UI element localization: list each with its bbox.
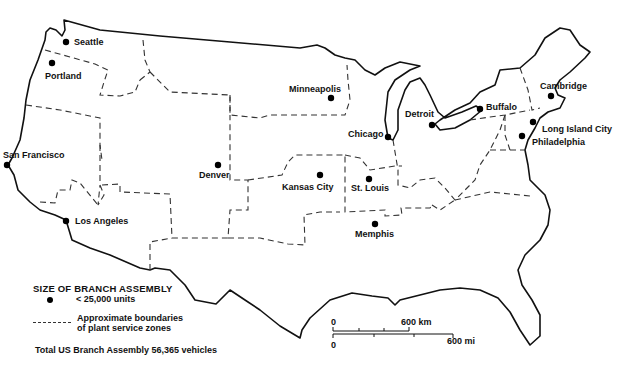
city-dot-los-angeles	[63, 218, 69, 224]
city-dot-denver	[215, 162, 221, 168]
city-label-denver: Denver	[199, 170, 230, 180]
city-dot-detroit	[429, 122, 435, 128]
scale-km-zero: 0	[331, 317, 336, 327]
city-dot-st-louis	[366, 176, 372, 182]
city-dot-long-island-city	[530, 119, 536, 125]
city-label-seattle: Seattle	[74, 37, 104, 47]
city-dot-kansas-city	[317, 172, 323, 178]
legend-dash-label-line1: Approximate boundaries	[77, 313, 183, 323]
city-dot-chicago	[385, 134, 391, 140]
city-label-kansas-city: Kansas City	[282, 182, 334, 192]
city-dot-cambridge	[548, 93, 554, 99]
legend-dash-label-line2: of plant service zones	[77, 323, 171, 333]
city-dot-memphis	[372, 221, 378, 227]
city-label-detroit: Detroit	[405, 109, 434, 119]
city-label-minneapolis: Minneapolis	[289, 84, 341, 94]
city-label-portland: Portland	[45, 71, 82, 81]
city-dot-san-francisco	[4, 162, 10, 168]
city-label-memphis: Memphis	[355, 229, 394, 239]
city-label-san-francisco: San Francisco	[3, 150, 65, 160]
city-dot-minneapolis	[328, 95, 334, 101]
legend-dot-label: < 25,000 units	[76, 294, 135, 304]
city-dot-seattle	[63, 39, 69, 45]
city-label-st-louis: St. Louis	[351, 183, 389, 193]
city-label-philadelphia: Philadelphia	[532, 137, 585, 147]
city-label-long-island-city: Long Island City	[542, 124, 612, 134]
city-dot-philadelphia	[519, 133, 525, 139]
city-label-chicago: Chicago	[348, 129, 384, 139]
city-dot-portland	[49, 60, 55, 66]
scale-mi-zero: 0	[331, 340, 336, 350]
city-label-cambridge: Cambridge	[540, 81, 587, 91]
scale-bar	[333, 327, 453, 338]
city-label-buffalo: Buffalo	[486, 102, 517, 112]
scale-km-label: 600 km	[401, 317, 432, 327]
scale-mi-label: 600 mi	[447, 336, 475, 346]
legend-title: SIZE OF BRANCH ASSEMBLY	[33, 283, 173, 294]
city-dot-buffalo	[477, 106, 483, 112]
total-assembly: Total US Branch Assembly 56,365 vehicles	[35, 345, 217, 355]
city-label-los-angeles: Los Angeles	[75, 216, 128, 226]
legend-dot-icon	[47, 297, 53, 303]
legend-dash-icon	[33, 322, 71, 323]
